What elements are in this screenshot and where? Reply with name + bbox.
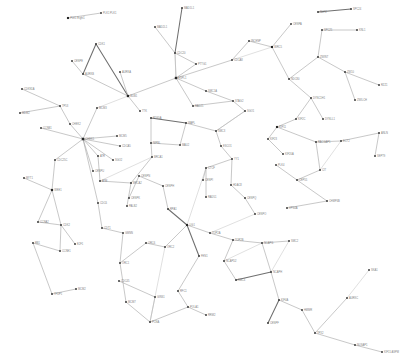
graph-node[interactable] [267, 322, 269, 324]
graph-node[interactable] [51, 189, 53, 191]
graph-node[interactable] [205, 167, 207, 169]
graph-node[interactable] [139, 110, 141, 112]
graph-node[interactable] [275, 164, 277, 166]
graph-node[interactable] [319, 169, 321, 171]
graph-node[interactable] [276, 126, 278, 128]
graph-node[interactable] [138, 175, 140, 177]
graph-node[interactable] [128, 197, 130, 199]
graph-node[interactable] [322, 118, 324, 120]
graph-node[interactable] [244, 197, 246, 199]
graph-node[interactable] [314, 332, 316, 334]
graph-node[interactable] [215, 130, 217, 132]
graph-node[interactable] [344, 71, 346, 73]
graph-node[interactable] [354, 344, 356, 346]
graph-node[interactable] [59, 105, 61, 107]
graph-node[interactable] [97, 155, 99, 157]
graph-node[interactable] [205, 90, 207, 92]
graph-node[interactable] [270, 271, 272, 273]
graph-node[interactable] [23, 177, 25, 179]
graph-node[interactable] [126, 205, 128, 207]
graph-node[interactable] [69, 123, 71, 125]
graph-node[interactable] [186, 224, 188, 226]
graph-node[interactable] [130, 182, 132, 184]
graph-node[interactable] [127, 95, 129, 97]
graph-node[interactable] [21, 88, 23, 90]
graph-node[interactable] [192, 105, 194, 107]
graph-node[interactable] [119, 145, 121, 147]
graph-node[interactable] [278, 299, 280, 301]
graph-node[interactable] [119, 262, 121, 264]
graph-node[interactable] [350, 8, 352, 10]
graph-node[interactable] [295, 118, 297, 120]
graph-node[interactable] [231, 59, 233, 61]
graph-node[interactable] [195, 63, 197, 65]
graph-node[interactable] [177, 290, 179, 292]
graph-node[interactable] [301, 309, 303, 311]
graph-node[interactable] [74, 243, 76, 245]
graph-node[interactable] [340, 140, 342, 142]
graph-node[interactable] [317, 11, 319, 13]
graph-node[interactable] [75, 288, 77, 290]
graph-node[interactable] [290, 23, 292, 25]
graph-node[interactable] [321, 29, 323, 31]
graph-node[interactable] [96, 107, 98, 109]
graph-node[interactable] [118, 280, 120, 282]
graph-node[interactable] [164, 246, 166, 248]
graph-node[interactable] [198, 255, 200, 257]
graph-node[interactable] [19, 112, 21, 114]
graph-node[interactable] [254, 213, 256, 215]
graph-node[interactable] [154, 26, 156, 28]
graph-node[interactable] [100, 12, 102, 14]
graph-node[interactable] [185, 122, 187, 124]
graph-node[interactable] [82, 73, 84, 75]
graph-node[interactable] [248, 40, 250, 42]
graph-node[interactable] [310, 97, 312, 99]
graph-node[interactable] [231, 158, 233, 160]
graph-node[interactable] [232, 100, 234, 102]
graph-node[interactable] [150, 117, 152, 119]
graph-node[interactable] [374, 155, 376, 157]
graph-node[interactable] [125, 301, 127, 303]
graph-node[interactable] [282, 153, 284, 155]
graph-node[interactable] [32, 242, 34, 244]
graph-node[interactable] [67, 17, 69, 19]
graph-node[interactable] [101, 227, 103, 229]
graph-node[interactable] [95, 43, 97, 45]
graph-node[interactable] [317, 56, 319, 58]
graph-node[interactable] [40, 127, 42, 129]
graph-node[interactable] [378, 84, 380, 86]
graph-node[interactable] [92, 170, 94, 172]
graph-node[interactable] [288, 78, 290, 80]
graph-node[interactable] [71, 60, 73, 62]
graph-node[interactable] [244, 110, 246, 112]
graph-node[interactable] [174, 52, 176, 54]
graph-node[interactable] [220, 145, 222, 147]
graph-node[interactable] [167, 208, 169, 210]
graph-node[interactable] [97, 202, 99, 204]
graph-node[interactable] [267, 138, 269, 140]
graph-node[interactable] [149, 321, 151, 323]
graph-node[interactable] [356, 29, 358, 31]
graph-node[interactable] [119, 71, 121, 73]
graph-node[interactable] [232, 239, 234, 241]
graph-node[interactable] [54, 159, 56, 161]
graph-node[interactable] [230, 184, 232, 186]
graph-node[interactable] [315, 141, 317, 143]
graph-node[interactable] [271, 46, 273, 48]
graph-node[interactable] [205, 314, 207, 316]
graph-node[interactable] [202, 179, 204, 181]
graph-node[interactable] [59, 250, 61, 252]
graph-node[interactable] [60, 224, 62, 226]
graph-node[interactable] [187, 306, 189, 308]
graph-node[interactable] [261, 242, 263, 244]
graph-node[interactable] [116, 135, 118, 137]
graph-node[interactable] [151, 156, 153, 158]
graph-node[interactable] [150, 142, 152, 144]
graph-node[interactable] [37, 221, 39, 223]
graph-node[interactable] [112, 159, 114, 161]
graph-node[interactable] [288, 240, 290, 242]
graph-node[interactable] [122, 232, 124, 234]
graph-node[interactable] [235, 279, 237, 281]
graph-node[interactable] [354, 99, 356, 101]
graph-node[interactable] [205, 196, 207, 198]
